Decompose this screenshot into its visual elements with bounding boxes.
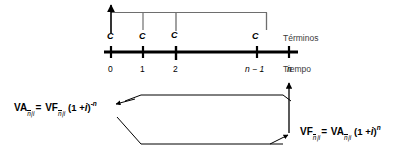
pv-lhs-var: VA — [14, 102, 27, 113]
pv-factor-open: (1 + — [68, 102, 85, 113]
pv-rhs-var: VF — [45, 102, 58, 113]
payment-label-0: C — [107, 31, 114, 41]
time-axis-group — [104, 46, 298, 60]
payment-label-n-1: C — [252, 31, 259, 41]
time-label-0: 0 — [108, 64, 113, 74]
fv-lhs-subscript: n|i — [313, 134, 320, 142]
payment-label-1: C — [139, 31, 146, 41]
fv-equals: = — [320, 126, 328, 137]
row-label-terminos: Términos — [283, 33, 318, 43]
fv-rhs-subscript: n|i — [344, 134, 351, 142]
time-label-n-minus-1: n − 1 — [245, 64, 264, 74]
fv-exponent: n — [377, 124, 381, 131]
capitalize-arrow-group — [117, 117, 288, 144]
payment-bracket-group — [111, 5, 267, 33]
fv-factor-open: (1 + — [354, 126, 371, 137]
time-label-1: 1 — [140, 64, 145, 74]
time-label-n: n — [287, 64, 292, 74]
discount-arrow-left-bevel — [125, 95, 141, 101]
pv-rhs-subscript: n|i — [58, 110, 65, 118]
annuity-timeline-figure: C C C C Términos Tiempo 0 1 2 n − 1 n VA… — [0, 0, 410, 152]
pv-exponent: -n — [91, 100, 97, 107]
time-label-2: 2 — [173, 64, 178, 74]
capitalize-arrow-head — [270, 135, 288, 144]
discount-arrow-right-bevel — [283, 95, 291, 101]
fv-rhs-var: VA — [331, 126, 344, 137]
discount-arrow-group — [116, 95, 291, 104]
fv-lhs-var: VF — [300, 126, 313, 137]
capitalize-arrow-left-bevel — [117, 117, 141, 144]
payment-label-2: C — [171, 30, 178, 40]
pv-equals: = — [35, 102, 43, 113]
formula-present-value: VAn|i= VFn|i (1 +i)-n — [14, 101, 97, 116]
pv-lhs-subscript: n|i — [27, 110, 34, 118]
discount-arrow-head — [116, 99, 135, 104]
formula-future-value: VFn|i= VAn|i (1 +i)n — [300, 125, 381, 140]
